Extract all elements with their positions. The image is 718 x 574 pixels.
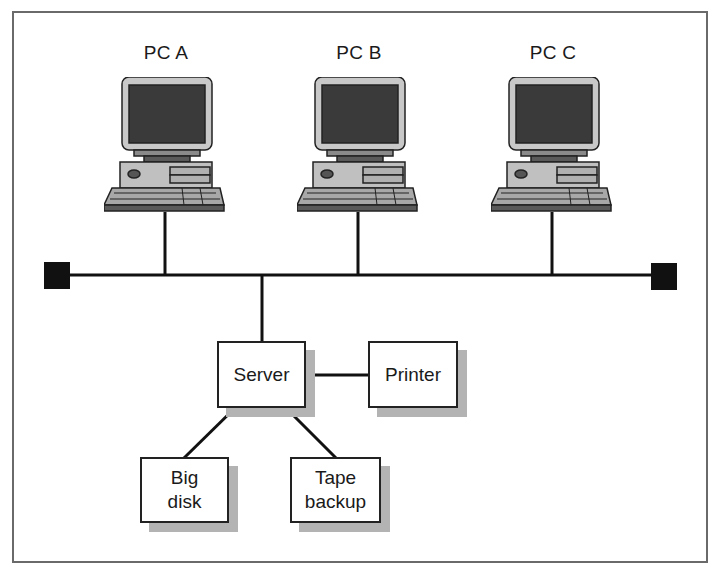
computer-icon xyxy=(491,77,615,217)
left-terminator xyxy=(44,262,70,289)
big-disk-node: Big disk xyxy=(140,457,229,523)
pc-c: PC C xyxy=(491,42,615,222)
pc-b: PC B xyxy=(297,42,421,222)
right-terminator xyxy=(651,263,677,290)
printer-node: Printer xyxy=(368,341,458,408)
server-tape-link xyxy=(284,406,336,458)
big-disk-label: Big disk xyxy=(168,466,202,514)
printer-label: Printer xyxy=(385,363,441,387)
tape-backup-label: Tape backup xyxy=(305,466,366,514)
pc-label: PC B xyxy=(297,42,421,64)
server-node: Server xyxy=(217,341,306,408)
computer-icon xyxy=(104,77,228,217)
server-label: Server xyxy=(234,363,290,387)
pc-label: PC C xyxy=(491,42,615,64)
pc-label: PC A xyxy=(104,42,228,64)
tape-backup-node: Tape backup xyxy=(290,457,381,523)
server-bigdisk-link xyxy=(184,406,237,458)
pc-a: PC A xyxy=(104,42,228,222)
computer-icon xyxy=(297,77,421,217)
